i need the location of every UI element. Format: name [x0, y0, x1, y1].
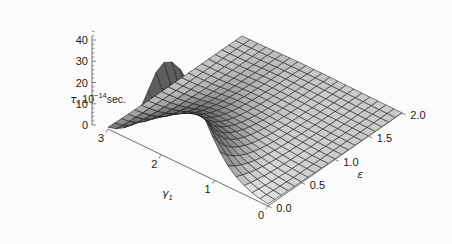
gamma1-tick-label-1: 1: [205, 183, 211, 195]
tau-tick-label-40: 40: [76, 34, 88, 46]
epsilon-tick-label-0: 0.0: [276, 202, 291, 214]
tau-axis-unit-prefix: , 10: [76, 93, 94, 105]
tau-axis-unit-suffix: sec.: [107, 93, 126, 105]
tau-tick-label-20: 20: [76, 77, 88, 89]
tau-tick-label-0: 0: [82, 119, 88, 131]
gamma1-tick-label-2: 2: [151, 158, 157, 170]
epsilon-tick-label-3: 1.5: [377, 132, 392, 144]
tau-axis-title: τ, 10−14sec.: [6, 92, 126, 105]
tau-axis-exponent: −14: [94, 91, 107, 100]
epsilon-axis-title: ε: [357, 168, 363, 181]
epsilon-tick-label-1: 0.5: [310, 179, 325, 191]
epsilon-tick-label-2: 1.0: [343, 156, 358, 168]
epsilon-tick-label-4: 2.0: [410, 109, 425, 121]
gamma1-tick-label-0: 0: [258, 209, 264, 221]
plot-canvas: 01020304032100.00.51.01.52.0 γ1 ε: [0, 0, 452, 244]
surface-plot-figure: 01020304032100.00.51.01.52.0 γ1 ε τ, 10−…: [0, 0, 452, 244]
tau-tick-label-30: 30: [76, 55, 88, 67]
gamma1-tick-label-3: 3: [98, 132, 104, 144]
